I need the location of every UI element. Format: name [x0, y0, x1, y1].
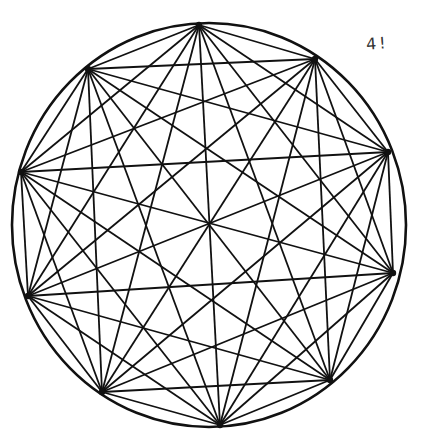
- graph-vertex: [18, 169, 24, 175]
- graph-vertex: [390, 270, 396, 276]
- graph-edges: [21, 25, 393, 425]
- graph-edge: [330, 273, 393, 380]
- graph-edge: [102, 59, 315, 392]
- graph-edge: [88, 69, 388, 152]
- graph-edge: [315, 59, 388, 152]
- graph-edge: [220, 380, 330, 425]
- graph-edge: [102, 380, 330, 392]
- graph-edge: [28, 296, 102, 392]
- graph-vertex: [25, 293, 31, 299]
- graph-vertex: [327, 377, 333, 383]
- graph-edge: [21, 172, 330, 380]
- graph-vertex: [196, 22, 202, 28]
- graph-vertex: [85, 66, 91, 72]
- graph-edge: [88, 25, 199, 69]
- graph-edge: [28, 296, 330, 380]
- handwritten-annotation: 4!: [365, 33, 389, 54]
- complete-graph-diagram: [0, 0, 426, 436]
- graph-edge: [21, 69, 88, 172]
- graph-edge: [21, 152, 388, 172]
- graph-edge: [330, 152, 388, 380]
- graph-vertex: [217, 422, 223, 428]
- graph-edge: [388, 152, 393, 273]
- graph-vertex: [385, 149, 391, 155]
- graph-edge: [199, 25, 388, 152]
- graph-edge: [28, 296, 220, 425]
- graph-edge: [88, 69, 102, 392]
- graph-edge: [88, 69, 330, 380]
- graph-edge: [28, 273, 393, 296]
- graph-vertex: [312, 56, 318, 62]
- graph-vertex: [99, 389, 105, 395]
